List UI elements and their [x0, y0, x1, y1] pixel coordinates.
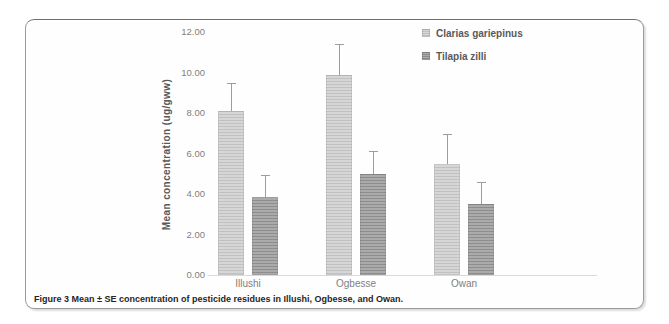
y-axis-tick-label: 8.00: [165, 107, 205, 119]
figure-caption-text: Mean ± SE concentration of pesticide res…: [72, 294, 404, 304]
y-axis-tick-label: 0.00: [165, 269, 205, 281]
error-bar-stem: [231, 83, 232, 111]
bar-clarias-gariepinus-ogbesse: [326, 75, 352, 275]
bar-clarias-gariepinus-owan: [434, 164, 460, 275]
x-axis-label-illushi: Illushi: [203, 278, 293, 290]
bar-tilapia-zilli-illushi: [252, 197, 278, 275]
error-bar-cap: [369, 151, 378, 152]
legend-label: Tilapia zilli: [436, 51, 486, 62]
x-axis-label-ogbesse: Ogbesse: [311, 278, 401, 290]
y-axis-tick-label: 2.00: [165, 229, 205, 241]
bar-chart: Mean concentration (ug/gww) 0.002.004.00…: [26, 20, 643, 308]
figure-caption-label: Figure 3: [34, 294, 69, 304]
x-axis-line: [208, 275, 597, 276]
y-axis-tick-label: 4.00: [165, 188, 205, 200]
error-bar-stem: [447, 134, 448, 163]
error-bar-stem: [265, 175, 266, 197]
error-bar-stem: [373, 151, 374, 173]
x-axis-label-owan: Owan: [419, 278, 509, 290]
legend-item-tilapia-zilli: Tilapia zilli: [422, 50, 486, 62]
error-bar-stem: [339, 44, 340, 74]
error-bar-cap: [477, 182, 486, 183]
figure-card: Mean concentration (ug/gww) 0.002.004.00…: [25, 19, 644, 309]
error-bar-cap: [227, 83, 236, 84]
error-bar-stem: [481, 182, 482, 204]
error-bar-cap: [335, 44, 344, 45]
legend-marker-icon: [422, 52, 430, 60]
y-axis-tick-label: 10.00: [165, 67, 205, 79]
figure-caption: Figure 3 Mean ± SE concentration of pest…: [34, 293, 634, 305]
legend-label: Clarias gariepinus: [436, 28, 523, 39]
legend-marker-icon: [422, 29, 430, 37]
error-bar-cap: [443, 134, 452, 135]
bar-tilapia-zilli-ogbesse: [360, 174, 386, 275]
y-axis-tick-label: 12.00: [165, 26, 205, 38]
bar-clarias-gariepinus-illushi: [218, 111, 244, 275]
legend-item-clarias-gariepinus: Clarias gariepinus: [422, 27, 523, 39]
page: Mean concentration (ug/gww) 0.002.004.00…: [0, 0, 669, 324]
y-axis-tick-label: 6.00: [165, 148, 205, 160]
error-bar-cap: [261, 175, 270, 176]
bar-tilapia-zilli-owan: [468, 204, 494, 275]
